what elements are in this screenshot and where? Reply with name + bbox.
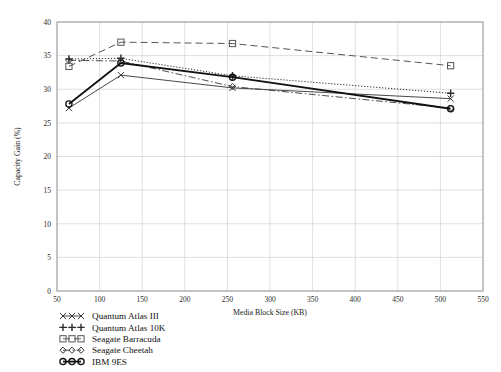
x-tick-label: 500 [435, 295, 447, 304]
legend-item-2[interactable]: Quantum Atlas 10K [59, 323, 166, 333]
y-axis-title: Capacity Gain (%) [13, 127, 22, 186]
y-tick-label: 5 [47, 253, 51, 262]
legend-label: IBM 9ES [92, 357, 127, 367]
x-tick-label: 250 [222, 295, 234, 304]
y-tick-label: 0 [47, 287, 51, 296]
series-layer [65, 39, 454, 112]
x-tick-label: 100 [94, 295, 106, 304]
legend-item-4[interactable]: Seagate Cheetah [60, 345, 153, 355]
legend-label: Seagate Cheetah [92, 345, 153, 355]
legend-item-1[interactable]: Quantum Atlas III [60, 311, 159, 321]
y-tick-label: 15 [44, 186, 52, 195]
series-line [69, 42, 451, 66]
legend-item-3[interactable]: Seagate Barracuda [60, 334, 161, 344]
data-point-plus-legend [59, 324, 66, 331]
legend-label: Seagate Barracuda [92, 334, 161, 344]
legend-item-5[interactable]: IBM 9ES [60, 357, 127, 367]
x-tick-label: 450 [392, 295, 404, 304]
series-line [69, 63, 451, 109]
series-line [69, 75, 451, 108]
data-point-plus-legend [77, 324, 84, 331]
y-tick-label: 40 [44, 18, 52, 27]
y-tick-label: 30 [44, 85, 52, 94]
x-tick-label: 50 [53, 295, 61, 304]
x-tick-label: 300 [264, 295, 276, 304]
data-point-plus [65, 55, 72, 62]
y-tick-label: 20 [44, 152, 52, 161]
x-tick-label: 400 [350, 295, 362, 304]
chart-figure: 50100150200250300350400450500550 0510152… [0, 0, 501, 372]
x-axis-ticks: 50100150200250300350400450500550 [53, 295, 489, 304]
x-tick-label: 200 [179, 295, 191, 304]
capacity-gain-line-chart: 50100150200250300350400450500550 0510152… [0, 0, 501, 372]
series-4 [66, 57, 454, 111]
x-tick-label: 550 [477, 295, 489, 304]
legend-label: Quantum Atlas III [92, 311, 159, 321]
x-tick-label: 150 [137, 295, 149, 304]
y-tick-label: 35 [44, 51, 52, 60]
data-point-circle [66, 101, 72, 107]
x-tick-label: 350 [307, 295, 319, 304]
y-tick-label: 10 [44, 220, 52, 229]
x-axis-title: Media Block Size (KB) [233, 308, 307, 317]
data-point-plus-legend [68, 324, 75, 331]
series-5 [66, 60, 454, 112]
legend-label: Quantum Atlas 10K [92, 323, 166, 333]
y-tick-label: 25 [44, 119, 52, 128]
chart-legend: Quantum Atlas IIIQuantum Atlas 10KSeagat… [59, 311, 166, 367]
y-axis-ticks: 0510152025303540 [44, 18, 52, 296]
